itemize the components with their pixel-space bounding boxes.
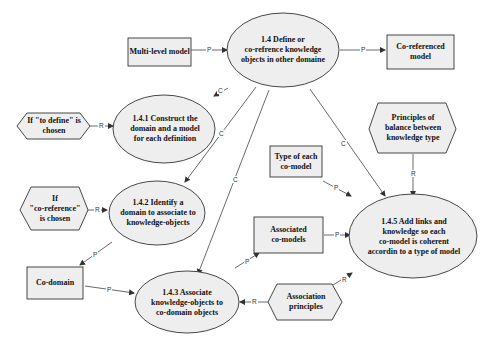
- edge-label-1-4-3-associated: P: [244, 258, 250, 265]
- edge-label-coref-1-4-2: R: [94, 206, 101, 213]
- node-main-ellipse[interactable]: [227, 13, 339, 87]
- node-coreferenced-rect[interactable]: [387, 35, 454, 69]
- node-associated-rect[interactable]: [254, 217, 323, 253]
- edge-label-assocprinciples-1-4-5: R: [341, 276, 348, 283]
- edge-label-todefine-1-4-1: R: [98, 122, 105, 129]
- node-assocprinciples-hex[interactable]: [268, 284, 342, 320]
- node-typeofeach-rect[interactable]: [270, 146, 322, 177]
- edge-label-main-1-4-5: C: [340, 140, 347, 147]
- node-1-4-5-ellipse[interactable]: [349, 194, 477, 278]
- edge-label-codomain-1-4-3: P: [106, 286, 112, 293]
- diagram-canvas: 1.4 Define or co-refrence knowledge obje…: [0, 0, 490, 348]
- node-1-4-3-ellipse[interactable]: [135, 271, 239, 333]
- edge-label-1-4-2-codomain: P: [92, 251, 98, 258]
- node-todefine-hex[interactable]: [17, 113, 90, 139]
- edge-label-associated-1-4-5: P: [334, 231, 340, 238]
- node-coref-hex[interactable]: [20, 187, 88, 230]
- edge-label-assocprinciples-1-4-3: R: [251, 298, 258, 305]
- node-codomain-rect[interactable]: [27, 267, 83, 299]
- edge-label-main-1-4-2: C: [218, 130, 225, 137]
- node-1-4-2-ellipse[interactable]: [109, 181, 205, 245]
- node-multilevel-rect[interactable]: [128, 38, 191, 66]
- node-1-4-1-ellipse[interactable]: [113, 95, 215, 163]
- edge-label-multilevel-main: P: [206, 46, 212, 53]
- edge-label-typeofeach-1-4-5: P: [333, 184, 339, 191]
- edge-label-main-1-4-3: C: [232, 176, 239, 183]
- edge-label-main-coreferenced: P: [360, 46, 366, 53]
- edge-label-main-1-4-1: C: [217, 87, 224, 94]
- edge-label-balance-1-4-5: R: [410, 170, 417, 177]
- node-balance-hex[interactable]: [369, 103, 456, 153]
